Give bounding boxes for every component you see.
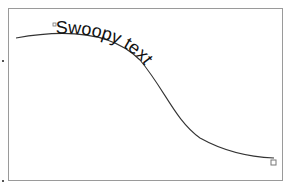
drawing-canvas[interactable]: Swoopy text <box>0 0 289 189</box>
path-start-handle[interactable] <box>53 23 56 26</box>
path-end-handle[interactable] <box>271 160 276 165</box>
swoopy-text[interactable]: Swoopy text <box>56 17 157 68</box>
path-layer: Swoopy text <box>0 0 289 189</box>
